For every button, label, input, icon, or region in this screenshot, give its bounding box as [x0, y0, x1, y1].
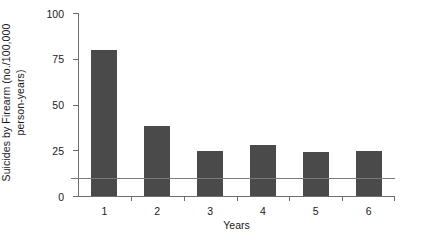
bar	[250, 145, 276, 196]
y-axis-tick: 100	[73, 13, 78, 14]
y-axis-tick: 25	[73, 150, 78, 151]
x-axis-tick	[131, 196, 132, 201]
y-axis-tick-label: 0	[58, 191, 64, 202]
y-axis-tick: 0	[73, 196, 78, 197]
x-axis-tick-label: 6	[349, 205, 389, 217]
y-axis-tick-label: 100	[46, 8, 64, 19]
x-axis-tick	[394, 196, 395, 201]
bar	[303, 152, 329, 196]
bar	[197, 151, 223, 196]
x-axis-tick	[237, 196, 238, 201]
y-axis-title: Suicides by Firearm (no./100,000 person-…	[0, 0, 46, 210]
x-axis-title: Years	[78, 219, 395, 231]
y-axis-title-line-1: Suicides by Firearm (no./100,000	[0, 0, 14, 205]
bar	[144, 126, 170, 196]
y-axis-line	[78, 13, 79, 196]
y-axis-title-line-2: person-years)	[14, 0, 28, 205]
y-axis-tick-label: 50	[52, 100, 64, 111]
x-axis-tick	[184, 196, 185, 201]
x-axis-tick-label: 5	[296, 205, 336, 217]
x-axis-tick-label: 1	[84, 205, 124, 217]
x-axis-tick-label: 3	[190, 205, 230, 217]
bar	[91, 50, 117, 196]
y-axis-tick: 75	[73, 59, 78, 60]
bar	[356, 151, 382, 196]
x-axis-tick-label: 2	[137, 205, 177, 217]
x-axis-tick	[342, 196, 343, 201]
y-axis-tick-label: 25	[52, 146, 64, 157]
y-axis-tick-label: 75	[52, 54, 64, 65]
y-axis-tick: 50	[73, 105, 78, 106]
x-axis-tick	[289, 196, 290, 201]
reference-line	[71, 178, 395, 179]
bar-chart-figure: Suicides by Firearm (no./100,000 person-…	[0, 0, 423, 246]
plot-area: 0255075100 123456	[78, 13, 395, 196]
x-axis-tick-label: 4	[243, 205, 283, 217]
